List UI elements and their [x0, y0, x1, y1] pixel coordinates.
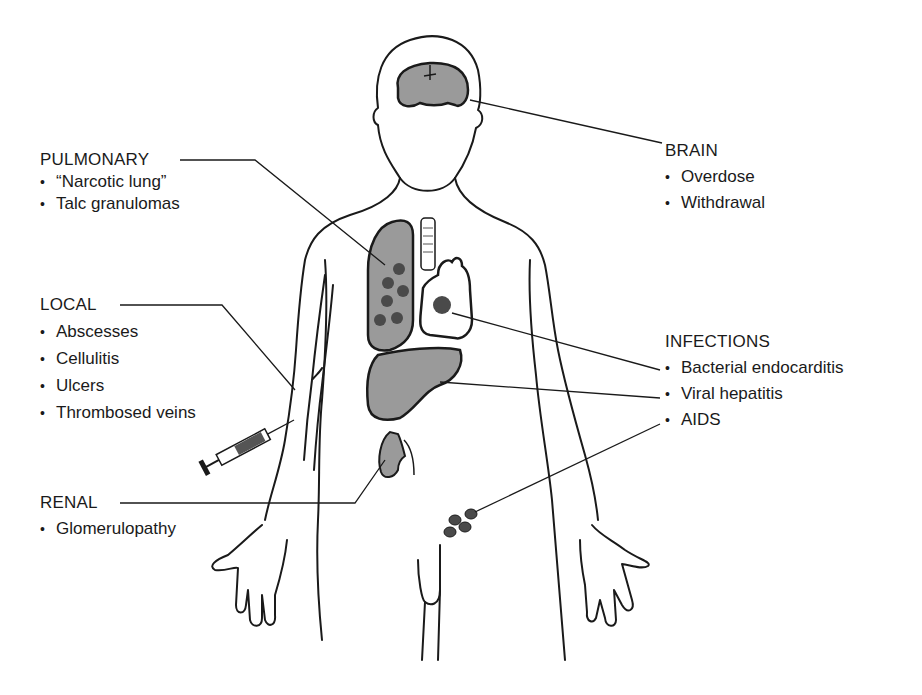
infections-item: Bacterial endocarditis — [665, 357, 844, 379]
leader-brain — [470, 100, 662, 143]
local-item: Thrombosed veins — [40, 402, 196, 424]
heart-vegetation — [433, 296, 451, 314]
virus-particles — [444, 509, 477, 537]
syringe-icon — [198, 413, 297, 476]
liver-organ — [367, 348, 461, 420]
infections-item: AIDS — [665, 409, 844, 431]
leader-pulmonary — [180, 160, 385, 265]
leader-endocarditis — [452, 313, 660, 370]
kidney-organ — [379, 432, 405, 477]
leader-aids — [475, 424, 660, 512]
infections-group: INFECTIONS Bacterial endocarditis Viral … — [665, 331, 844, 431]
infections-heading: INFECTIONS — [665, 331, 844, 353]
renal-item: Glomerulopathy — [40, 518, 176, 540]
pulmonary-item: Talc granulomas — [40, 193, 180, 215]
pulmonary-item: “Narcotic lung” — [40, 171, 180, 193]
groin-outline — [418, 545, 440, 604]
pulmonary-heading: PULMONARY — [40, 149, 180, 171]
right-side-body — [529, 260, 565, 660]
local-item: Cellulitis — [40, 348, 196, 370]
brain-heading: BRAIN — [665, 140, 765, 162]
local-item: Abscesses — [40, 321, 196, 343]
left-hand-outline — [212, 525, 287, 626]
neck-curve — [400, 178, 455, 191]
local-item: Ulcers — [40, 375, 196, 397]
local-group: LOCAL Abscesses Cellulitis Ulcers Thromb… — [40, 294, 196, 424]
brain-item: Withdrawal — [665, 192, 765, 214]
renal-group: RENAL Glomerulopathy — [40, 492, 176, 540]
local-heading: LOCAL — [40, 294, 196, 316]
head-outline — [374, 36, 483, 178]
torso-right-outline — [455, 178, 598, 520]
right-hand-outline — [580, 525, 649, 626]
pulmonary-group: PULMONARY “Narcotic lung” Talc granuloma… — [40, 149, 180, 215]
renal-heading: RENAL — [40, 492, 176, 514]
brain-item: Overdose — [665, 166, 765, 188]
brain-organ — [397, 63, 468, 106]
brain-group: BRAIN Overdose Withdrawal — [665, 140, 765, 214]
infections-item: Viral hepatitis — [665, 383, 844, 405]
forearm-veins — [304, 275, 333, 470]
leader-hepatitis — [440, 382, 660, 398]
